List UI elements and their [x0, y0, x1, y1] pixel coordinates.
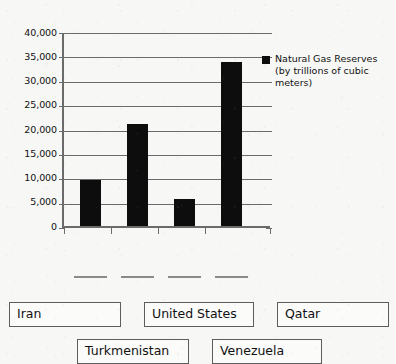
chart-legend: Natural Gas Reserves (by trillions of cu…: [262, 53, 392, 90]
x-tick-2: [158, 228, 159, 234]
x-tick-0: [64, 228, 65, 234]
chart-exercise-root: 40,000 35,000 30,000 25,000 20,000 15,00…: [0, 0, 396, 364]
x-tick-4: [270, 228, 271, 234]
y-tick-25000: [59, 106, 64, 107]
y-tick-label-0: 0: [5, 222, 57, 232]
dropzone-1[interactable]: [74, 276, 107, 278]
y-tick-right-25000: [266, 106, 272, 107]
y-tick-right-5000: [266, 204, 272, 205]
y-tick-10000: [59, 179, 64, 180]
y-tick-label-10000: 10,000: [5, 173, 57, 183]
token-turkmenistan[interactable]: Turkmenistan: [77, 339, 189, 364]
y-tick-label-35000: 35,000: [5, 52, 57, 62]
token-united-states[interactable]: United States: [144, 302, 254, 327]
legend-label-line-1: Natural Gas Reserves: [275, 53, 377, 64]
y-tick-right-0: [266, 228, 272, 229]
legend-label-line-2: (by trillions of cubic: [275, 65, 369, 76]
y-tick-label-25000: 25,000: [5, 100, 57, 110]
dropzone-2[interactable]: [121, 276, 154, 278]
x-tick-1: [111, 228, 112, 234]
bar-2: [127, 124, 148, 226]
bar-1: [80, 180, 101, 226]
legend-swatch-icon: [262, 56, 270, 64]
gridline-35000: [64, 57, 272, 58]
x-tick-3: [205, 228, 206, 234]
y-tick-label-40000: 40,000: [5, 28, 57, 38]
y-tick-5000: [59, 204, 64, 205]
legend-label: Natural Gas Reserves (by trillions of cu…: [275, 53, 377, 90]
token-venezuela[interactable]: Venezuela: [212, 339, 322, 364]
legend-label-line-3: meters): [275, 77, 312, 88]
y-tick-label-20000: 20,000: [5, 125, 57, 135]
bar-4: [221, 62, 242, 226]
y-tick-right-10000: [266, 179, 272, 180]
bar-3: [174, 199, 195, 226]
y-tick-right-20000: [266, 131, 272, 132]
gridline-40000: [64, 33, 272, 34]
y-tick-35000: [59, 57, 64, 58]
token-qatar[interactable]: Qatar: [277, 302, 389, 327]
plot-area: [62, 33, 270, 228]
y-tick-15000: [59, 155, 64, 156]
dropzone-4[interactable]: [215, 276, 248, 278]
y-tick-label-15000: 15,000: [5, 149, 57, 159]
token-iran[interactable]: Iran: [9, 302, 121, 327]
y-tick-label-30000: 30,000: [5, 76, 57, 86]
y-tick-30000: [59, 82, 64, 83]
dropzone-3[interactable]: [168, 276, 201, 278]
y-tick-20000: [59, 131, 64, 132]
y-tick-right-15000: [266, 155, 272, 156]
y-tick-label-5000: 5,000: [5, 197, 57, 207]
y-tick-40000: [59, 33, 64, 34]
y-axis-labels: 40,000 35,000 30,000 25,000 20,000 15,00…: [0, 0, 57, 260]
bar-chart: 40,000 35,000 30,000 25,000 20,000 15,00…: [0, 0, 396, 260]
